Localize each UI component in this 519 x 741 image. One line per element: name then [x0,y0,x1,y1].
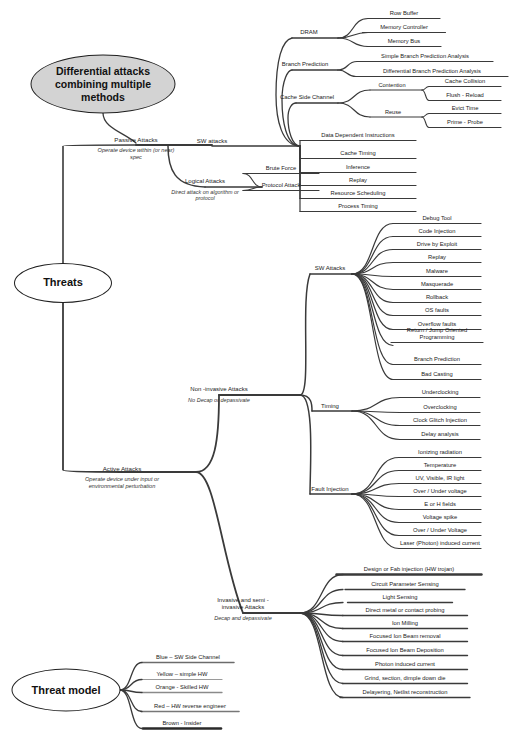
node-threat_model-label: Threat model [23,683,108,697]
branch-active-sublabel: Operate device under input or environmen… [83,476,161,489]
leaf-cache_timing-label: Cache Timing [340,150,375,156]
branch-logical-sublabel: Direct attack on algorithm or protocol [166,189,244,202]
leaf-branch_prediction_sw-label: Branch Prediction [414,356,460,362]
leaf-diff_bpa: Differential Branch Prediction Analysis [383,68,481,75]
leaf-data_dep_instr-label: Data Dependent Instructions [321,132,394,138]
leaf-simple_bpa-label: Simple Branch Prediction Analysis [381,53,469,59]
leaf-cache_collision: Cache Collision [445,78,485,85]
branch-active: Active Attacks [103,465,142,472]
leaf-bad_casting-label: Bad Casting [421,371,453,377]
leaf-grind_section: Grind, section, dimple down die [365,675,446,682]
leaf-over_under_voltage_2-label: Over / Under Voltage [413,527,467,533]
branch-logical: Logical Attacks [185,178,225,185]
leaf-memory_bus: Memory Bus [388,38,421,45]
leaf-circuit_param_sensing-label: Circuit Parameter Sensing [371,581,439,587]
legend-legend_red: Red – HW reverse engineer [154,703,226,710]
branch-fault_injection: Fault Injection [311,486,348,493]
branch-reuse-label: Reuse [385,109,401,115]
branch-non_invasive-label: Non -invasive Attacks [190,386,247,392]
leaf-replay_sw: Replay [428,254,446,261]
leaf-rollback-label: Rollback [426,294,448,300]
leaf-flush_reload-label: Flush - Reload [446,92,484,98]
legend-legend_red-label: Red – HW reverse engineer [154,703,226,709]
leaf-inference-label: Inference [346,164,370,170]
branch-sw_attacks_active: SW Attacks [315,265,346,272]
leaf-code_injection-label: Code Injection [418,228,455,234]
leaf-replay_sw-label: Replay [428,254,446,260]
branch-reuse: Reuse [385,109,401,116]
leaf-uv_vis_ir-label: UV, Visible, IR light [416,475,465,481]
branch-fault_injection-label: Fault Injection [311,486,348,492]
branch-dram-label: DRAM [300,29,317,35]
leaf-row_buffer: Row Buffer [390,10,419,17]
leaf-flush_reload: Flush - Reload [446,92,484,99]
leaf-e_or_h_fields-label: E or H fields [424,501,456,507]
branch-passive-label: Passive Attacks [114,136,157,143]
leaf-drive_by_exploit-label: Drive by Exploit [417,241,457,247]
leaf-memory_controller-label: Memory Controller [380,24,428,30]
branch-timing: Timing [321,403,339,410]
branch-active-label: Active Attacks [103,465,142,472]
branch-contention: Contention [378,82,405,89]
branch-passive: Passive Attacks [114,136,157,143]
leaf-delay_analysis: Delay analysis [421,431,458,438]
branch-passive-sublabel: Operate device within (or near) spec [97,147,175,160]
leaf-replay_passive: Replay [349,177,367,184]
leaf-photon_induced_current: Photon induced current [375,661,435,668]
node-threats: Threats [14,263,112,303]
leaf-memory_bus-label: Memory Bus [388,38,421,44]
leaf-ionizing_radiation-label: Ionizing radiation [418,449,462,455]
leaf-design_fab_injection-label: Design or Fab injection (HW trojan) [364,566,455,572]
leaf-light_sensing: Light Sensing [382,594,417,601]
leaf-malware: Malware [426,268,448,275]
legend-legend_brown-label: Brown - Insider [163,720,202,726]
leaf-light_sensing-label: Light Sensing [382,594,417,600]
leaf-overclocking-label: Overclocking [423,404,457,410]
legend-legend_yellow: Yellow – simple HW [156,671,207,678]
leaf-resource_scheduling: Resource Scheduling [330,190,385,197]
leaf-diff_bpa-label: Differential Branch Prediction Analysis [383,68,481,74]
legend-legend_blue: Blue – SW Side Channel [156,654,220,661]
leaf-fib_removal: Focused Ion Beam removal [370,633,441,640]
branch-branch_prediction-label: Branch Prediction [282,61,329,67]
leaf-masquerade-label: Masquerade [421,281,453,287]
branch-contention-label: Contention [378,82,405,88]
node-differential-label: Differential attacks combining multiple … [32,64,175,103]
branch-cache_side_channel: Cache Side Channel [280,94,334,101]
leaf-laser_photon-label: Laser (Photon) induced current [400,540,480,546]
leaf-fib_deposition: Focused Ion Beam Deposition [366,647,444,654]
branch-dram: DRAM [300,29,317,36]
leaf-underclocking: Underclocking [422,389,459,396]
branch-invasive-label: Invasive and semi - invasive Attacks [217,597,269,610]
leaf-laser_photon: Laser (Photon) induced current [400,540,480,547]
leaf-simple_bpa: Simple Branch Prediction Analysis [381,53,469,60]
leaf-temperature-label: Temperature [424,462,457,468]
legend-legend_yellow-label: Yellow – simple HW [156,671,207,677]
leaf-delay_analysis-label: Delay analysis [421,431,458,437]
leaf-replay_passive-label: Replay [349,177,367,183]
mindmap-canvas: Differential attacks combining multiple … [0,0,519,741]
leaf-rollback: Rollback [426,294,448,301]
legend-legend_orange-label: Orange - Skilled HW [156,684,209,690]
leaf-circuit_param_sensing: Circuit Parameter Sensing [371,581,439,588]
leaf-temperature: Temperature [424,462,457,469]
leaf-os_faults: OS faults [425,307,449,314]
leaf-cache_timing: Cache Timing [340,150,375,157]
leaf-brute_force: Brute Force [266,165,296,172]
leaf-prime_probe-label: Prime - Probe [447,119,483,125]
leaf-evict_time: Evict Time [452,105,479,112]
leaf-overclocking: Overclocking [423,404,457,411]
branch-invasive-sublabel: Decap and depassivate [204,615,282,621]
leaf-prime_probe: Prime - Probe [447,119,483,126]
leaf-ion_milling-label: Ion Milling [392,620,418,626]
leaf-uv_vis_ir: UV, Visible, IR light [416,475,465,482]
leaf-drive_by_exploit: Drive by Exploit [417,241,457,248]
leaf-os_faults-label: OS faults [425,307,449,313]
leaf-direct_probing-label: Direct metal or contact probing [366,607,445,613]
branch-sw_attacks_passive: SW attacks [197,138,227,145]
leaf-delayering: Delayering, Netlist reconstruction [362,689,447,696]
legend-legend_blue-label: Blue – SW Side Channel [156,654,220,660]
leaf-grind_section-label: Grind, section, dimple down die [365,675,446,681]
branch-timing-label: Timing [321,403,339,409]
leaf-over_under_voltage_2: Over / Under Voltage [413,527,467,534]
